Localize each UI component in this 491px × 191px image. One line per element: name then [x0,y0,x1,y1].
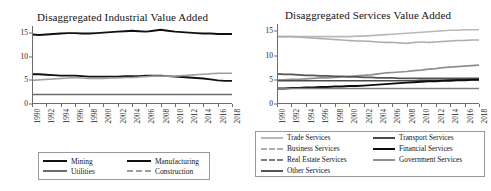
y-tick-mark [274,55,277,56]
plot-area-industrial [32,26,232,104]
x-tick-mark [75,104,76,107]
x-tick-mark [320,104,321,107]
x-tick-mark [203,104,204,107]
legend-swatch-icon [373,137,395,139]
x-tick-label: 2002 [121,109,128,123]
x-tick-mark [291,104,292,107]
legend-label: Utilities [71,167,95,176]
y-tick-label: 0 [24,100,28,108]
x-tick-label: 1990 [280,109,287,123]
legend-item[interactable]: Government Services [373,155,479,165]
legend-label: Mining [71,157,93,166]
y-axis-services [277,24,278,104]
legend-industrial: MiningManufacturingUtilitiesConstruction [38,152,210,180]
x-tick-mark [364,104,365,107]
x-tick-label: 1990 [35,109,42,123]
x-tick-label: 2008 [164,109,171,123]
legend-swatch-icon [43,160,67,162]
x-tick-label: 2004 [381,109,388,123]
two-panel-figure: Disaggregated Industrial Value Added 051… [0,0,491,191]
legend-swatch-icon [373,159,395,161]
y-tick-label: 5 [269,76,273,84]
y-tick-mark [274,79,277,80]
legend-item[interactable]: Construction [127,167,205,176]
plot-area-services [277,24,479,104]
x-tick-mark [32,104,33,107]
x-tick-mark [277,104,278,107]
x-tick-label: 2000 [106,109,113,123]
legend-item[interactable]: Transport Services [373,133,479,143]
legend-swatch-icon [261,137,283,139]
x-tick-label: 2006 [395,109,402,123]
x-tick-label: 2018 [235,109,242,123]
x-tick-mark [103,104,104,107]
y-tick-label: 15 [266,28,274,36]
x-tick-label: 1994 [64,109,71,123]
x-tick-mark [436,104,437,107]
x-tick-mark [132,104,133,107]
x-tick-label: 1992 [294,109,301,123]
legend-label: Manufacturing [155,157,199,166]
legend-swatch-icon [261,159,283,161]
x-tick-mark [392,104,393,107]
y-tick-label: 15 [21,29,29,37]
legend-label: Business Services [287,144,340,154]
x-tick-mark [175,104,176,107]
x-tick-mark [89,104,90,107]
x-tick-mark [46,104,47,107]
x-tick-label: 1996 [323,109,330,123]
page-title-industrial: Disaggregated Industrial Value Added [0,11,245,23]
legend-swatch-icon [127,170,151,172]
page-title-services: Disaggregated Services Value Added [245,9,491,21]
x-tick-label: 2016 [468,109,475,123]
legend-label: Financial Services [399,144,453,154]
x-tick-label: 1992 [49,109,56,123]
legend-swatch-icon [373,148,395,150]
x-tick-label: 2010 [424,109,431,123]
x-tick-mark [232,104,233,107]
legend-label: Trade Services [287,133,330,143]
plot-industrial: 051015 199019921994199619982000200220042… [32,26,232,104]
legend-item[interactable]: Business Services [261,144,367,154]
legend-swatch-icon [127,160,151,162]
legend-services: Trade ServicesTransport ServicesBusiness… [255,131,485,177]
y-tick-mark [274,31,277,32]
legend-label: Transport Services [399,133,454,143]
y-tick-label: 10 [266,52,274,60]
legend-item[interactable]: Utilities [43,167,121,176]
x-tick-label: 2012 [439,109,446,123]
x-tick-label: 2002 [367,109,374,123]
x-tick-mark [349,104,350,107]
x-tick-label: 2004 [135,109,142,123]
x-tick-mark [306,104,307,107]
x-tick-label: 2016 [221,109,228,123]
x-tick-label: 2012 [192,109,199,123]
legend-item[interactable]: Manufacturing [127,157,205,166]
legend-item[interactable]: Financial Services [373,144,479,154]
x-tick-label: 2014 [453,109,460,123]
legend-item[interactable]: Mining [43,157,121,166]
legend-swatch-icon [261,170,283,172]
series-line [32,30,232,35]
x-tick-label: 2008 [410,109,417,123]
x-tick-label: 1994 [309,109,316,123]
panel-services: Disaggregated Services Value Added 05101… [245,0,491,191]
x-tick-label: 1998 [92,109,99,123]
x-tick-label: 2014 [206,109,213,123]
x-tick-label: 1996 [78,109,85,123]
legend-label: Construction [155,167,193,176]
legend-swatch-icon [43,170,67,172]
x-tick-mark [335,104,336,107]
x-tick-mark [407,104,408,107]
legend-label: Government Services [399,155,462,165]
x-tick-mark [465,104,466,107]
legend-item[interactable]: Real Estate Services [261,155,367,165]
panel-industrial: Disaggregated Industrial Value Added 051… [0,0,245,191]
x-tick-mark [218,104,219,107]
plot-services: 051015 199019921994199619982000200220042… [277,24,479,104]
legend-item[interactable]: Trade Services [261,133,367,143]
x-tick-mark [161,104,162,107]
y-tick-mark [29,80,32,81]
legend-item[interactable]: Other Services [261,166,367,176]
x-tick-mark [450,104,451,107]
